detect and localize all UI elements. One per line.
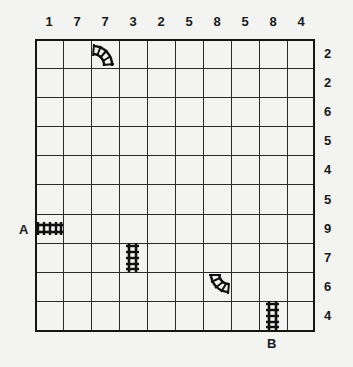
column-clue-10: 4 [287, 14, 315, 29]
row-clue-3: 6 [324, 104, 340, 119]
row-clue-1: 2 [324, 46, 340, 61]
grid-line [259, 41, 260, 330]
grid-line [231, 41, 232, 330]
row-clue-2: 2 [324, 75, 340, 90]
grid-line [37, 243, 313, 244]
row-clue-5: 4 [324, 162, 340, 177]
grid-line [63, 41, 64, 330]
curve-track-icon [203, 272, 231, 301]
column-clue-6: 5 [175, 14, 203, 29]
column-clue-4: 3 [119, 14, 147, 29]
grid-line [37, 214, 313, 215]
grid-line [175, 41, 176, 330]
grid-line [287, 41, 288, 330]
straight-track-icon [119, 243, 147, 272]
grid-line [91, 41, 92, 330]
row-clue-10: 4 [324, 308, 340, 323]
row-clue-9: 6 [324, 279, 340, 294]
curve-track-icon [91, 39, 119, 68]
grid-line [119, 41, 120, 330]
column-clue-1: 1 [35, 14, 63, 29]
grid-line [147, 41, 148, 330]
row-clue-8: 7 [324, 250, 340, 265]
row-clue-7: 9 [324, 221, 340, 236]
row-clue-4: 5 [324, 133, 340, 148]
column-clue-5: 2 [147, 14, 175, 29]
grid-line [37, 272, 313, 273]
row-clue-6: 5 [324, 192, 340, 207]
grid-line [37, 68, 313, 69]
column-clue-9: 8 [259, 14, 287, 29]
puzzle-grid[interactable] [35, 39, 315, 332]
grid-line [37, 97, 313, 98]
grid-line [37, 155, 313, 156]
column-clue-3: 7 [91, 14, 119, 29]
straight-track-icon [259, 301, 287, 330]
straight-track-icon [35, 214, 63, 243]
column-clue-7: 8 [203, 14, 231, 29]
column-clue-8: 5 [231, 14, 259, 29]
grid-line [37, 184, 313, 185]
column-clue-2: 7 [63, 14, 91, 29]
end-label: B [267, 336, 276, 351]
grid-line [37, 126, 313, 127]
start-label: A [19, 222, 28, 237]
